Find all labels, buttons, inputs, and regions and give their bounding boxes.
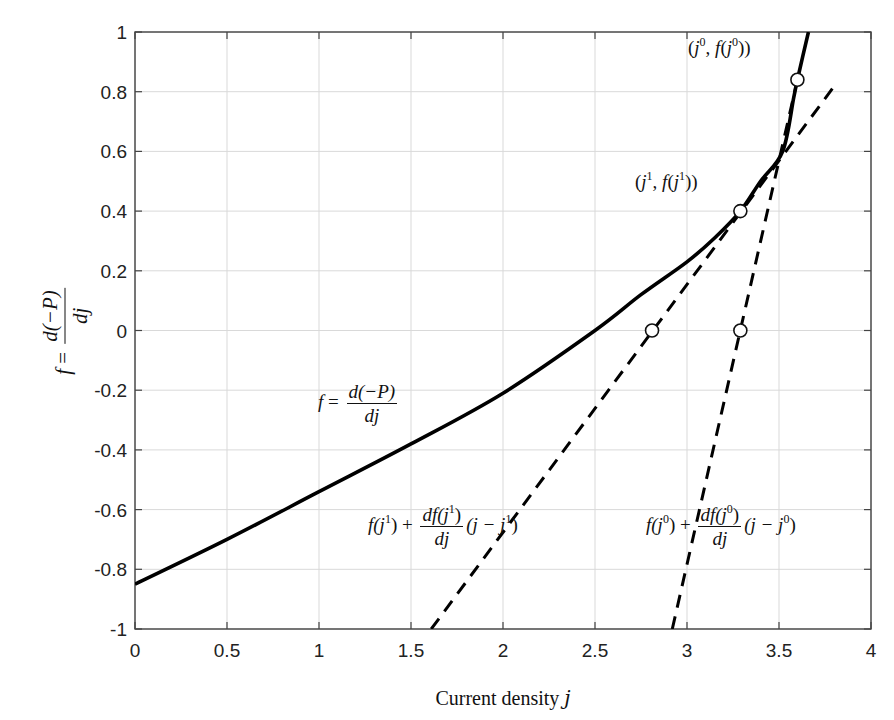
annotation-curve-label: f = d(−P)dj <box>318 382 400 425</box>
x-tick-label: 3 <box>682 640 693 661</box>
x-tick-label: 0.5 <box>214 640 240 661</box>
annotation-tangent-j1: f(j1) + df(j1)dj(j − j1) <box>368 505 518 548</box>
y-tick-label: -1 <box>110 619 127 640</box>
x-axis-label: Current density j <box>435 686 570 710</box>
x-tick-label: 1.5 <box>398 640 424 661</box>
newton-iteration-chart: 00.511.522.533.54-1-0.8-0.6-0.4-0.200.20… <box>0 0 894 720</box>
x-tick-label: 3.5 <box>766 640 792 661</box>
axis-ticks: 00.511.522.533.54-1-0.8-0.6-0.4-0.200.20… <box>94 22 876 661</box>
y-tick-label: -0.4 <box>94 440 127 461</box>
point-marker <box>791 73 804 86</box>
y-tick-label: 1 <box>116 22 127 43</box>
y-tick-label: -0.8 <box>94 559 127 580</box>
ylabel-f: f <box>51 369 75 375</box>
y-tick-label: 0.8 <box>101 82 127 103</box>
ylabel-fraction: d(−P)dj <box>38 288 93 344</box>
y-tick-label: -0.6 <box>94 500 127 521</box>
y-tick-label: 0.4 <box>101 201 128 222</box>
curve-f <box>135 32 808 584</box>
annotation-tangent-j0: f(j0) + df(j0)dj(j − j0) <box>646 505 796 548</box>
point-marker <box>734 324 747 337</box>
x-tick-label: 0 <box>130 640 141 661</box>
annotation-j0-point: (j0, f(j0)) <box>688 38 751 57</box>
y-axis-label: f = d(−P)dj <box>10 250 120 410</box>
point-markers <box>646 73 804 337</box>
x-tick-label: 4 <box>866 640 877 661</box>
x-tick-label: 2 <box>498 640 509 661</box>
x-tick-label: 2.5 <box>582 640 608 661</box>
x-tick-label: 1 <box>314 640 325 661</box>
point-marker <box>646 324 659 337</box>
y-tick-label: 0.6 <box>101 141 127 162</box>
point-marker <box>734 205 747 218</box>
annotation-j1-point: (j1, f(j1)) <box>635 172 698 191</box>
